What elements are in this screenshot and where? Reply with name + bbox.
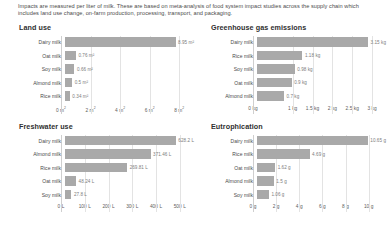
- axis-tick-label: 4 g: [296, 204, 303, 209]
- chart-title: Land use: [19, 23, 194, 32]
- bar-category-label: Oat milk: [210, 165, 257, 171]
- bar-category-label: Oat milk: [18, 53, 65, 59]
- bar-area: 4.69 g: [257, 148, 386, 160]
- chart-panel-freshwater-use: Freshwater use Dairy milk628.2 LAlmond m…: [18, 122, 194, 213]
- axis-tick-label: 4 m2: [115, 106, 125, 113]
- bar[interactable]: [65, 78, 72, 88]
- bar-area: 1.06 g: [257, 189, 386, 201]
- bar-area: 371.46 L: [65, 148, 194, 160]
- bar-value-label: 1.62 g: [278, 165, 291, 170]
- bar-area: 0.76 m²: [65, 50, 194, 62]
- bar-value-label: 3.15 kg: [371, 40, 386, 45]
- axis-tick-label: 1.5 kg: [306, 106, 319, 111]
- bar-value-label: 371.46 L: [153, 152, 171, 157]
- axis-tick-label: 200 L: [102, 204, 114, 209]
- bar[interactable]: [65, 136, 176, 146]
- axis-tick-label: 0 m2: [56, 106, 66, 113]
- bar[interactable]: [257, 163, 275, 173]
- axis-tick-label: 400 L: [150, 204, 162, 209]
- bar-value-label: 8.95 m²: [178, 40, 194, 45]
- bar-category-label: Oat milk: [210, 80, 257, 86]
- bar-area: 0.66 m²: [65, 63, 194, 75]
- bar-category-label: Dairy milk: [210, 138, 257, 144]
- bar-chart: Dairy milk10.65 gRice milk4.69 gOat milk…: [210, 135, 386, 213]
- bar-area: 1.18 kg: [257, 50, 386, 62]
- bar-area: 10.65 g: [257, 135, 386, 147]
- axis-tick-label: 0 g: [250, 204, 257, 209]
- bar[interactable]: [257, 37, 368, 47]
- bar-value-label: 0.76 m²: [78, 53, 94, 58]
- bar-value-label: 48.24 L: [79, 179, 95, 184]
- bar-row: Rice milk269.81 L: [18, 162, 194, 174]
- bar[interactable]: [257, 91, 284, 101]
- axis-tick-label: 100 L: [79, 204, 91, 209]
- bar-category-label: Almond milk: [210, 93, 257, 99]
- bar-area: 8.95 m²: [65, 36, 194, 48]
- bar-area: 27.8 L: [65, 189, 194, 201]
- bar-category-label: Soy milk: [18, 192, 65, 198]
- x-axis: 0 g2 g4 g6 g8 g10 g: [253, 202, 386, 212]
- bar-value-label: 0.5 m²: [75, 80, 88, 85]
- chart-panel-eutrophication: Eutrophication Dairy milk10.65 gRice mil…: [210, 122, 386, 213]
- bar-category-label: Almond milk: [18, 151, 65, 157]
- infographic-page: Impacts are measured per liter of milk. …: [0, 0, 387, 236]
- axis-tick-label: 8 g: [342, 204, 349, 209]
- bar-value-label: 0.9 kg: [294, 80, 307, 85]
- bar[interactable]: [65, 64, 74, 74]
- bar[interactable]: [257, 64, 295, 74]
- bar[interactable]: [257, 51, 302, 61]
- bar-value-label: 1.06 g: [271, 192, 284, 197]
- bar-value-label: 0.7 kg: [286, 94, 299, 99]
- bar[interactable]: [257, 176, 274, 186]
- bar-row: Dairy milk8.95 m²: [18, 36, 194, 48]
- axis-tick-label: 10 g: [364, 204, 374, 209]
- bar-row: Soy milk0.98 kg: [210, 63, 386, 75]
- bar[interactable]: [65, 91, 70, 101]
- bar-area: 3.15 kg: [257, 36, 386, 48]
- charts-grid: Land use Dairy milk8.95 m²Oat milk0.76 m…: [18, 23, 369, 212]
- bar-chart: Dairy milk8.95 m²Oat milk0.76 m²Soy milk…: [18, 36, 194, 114]
- bar-area: 1.62 g: [257, 162, 386, 174]
- bar-row: Oat milk48.24 L: [18, 175, 194, 187]
- bar-category-label: Dairy milk: [18, 138, 65, 144]
- bar-area: 1.5 g: [257, 175, 386, 187]
- chart-title: Greenhouse gas emissions: [211, 23, 386, 32]
- bar-row: Soy milk1.06 g: [210, 189, 386, 201]
- chart-panel-greenhouse-gas-emissions: Greenhouse gas emissions Dairy milk3.15 …: [210, 23, 386, 114]
- bar-category-label: Dairy milk: [18, 39, 65, 45]
- bar-area: 269.81 L: [65, 162, 194, 174]
- bar[interactable]: [65, 163, 127, 173]
- bar[interactable]: [257, 136, 368, 146]
- axis-tick-label: 6 g: [319, 204, 326, 209]
- bar-row: Oat milk0.9 kg: [210, 77, 386, 89]
- bar-row: Rice milk0.34 m²: [18, 90, 194, 102]
- bar-value-label: 4.69 g: [312, 152, 325, 157]
- bar-category-label: Rice milk: [18, 93, 65, 99]
- x-axis: 0 m22 m24 m26 m28 m2: [61, 104, 194, 114]
- bar-area: 628.2 L: [65, 135, 194, 147]
- bar[interactable]: [65, 176, 76, 186]
- bar-value-label: 0.98 kg: [297, 67, 312, 72]
- bar[interactable]: [65, 51, 76, 61]
- bar-category-label: Oat milk: [18, 178, 65, 184]
- bar-row: Oat milk1.62 g: [210, 162, 386, 174]
- bar[interactable]: [257, 149, 310, 159]
- bar-category-label: Soy milk: [210, 66, 257, 72]
- bar-row: Almond milk0.5 m²: [18, 77, 194, 89]
- axis-tick-label: 2 m2: [86, 106, 96, 113]
- bar-row: Rice milk4.69 g: [210, 148, 386, 160]
- bar-row: Almond milk1.5 g: [210, 175, 386, 187]
- bar[interactable]: [65, 149, 151, 159]
- bar-area: 0.98 kg: [257, 63, 386, 75]
- bar-category-label: Dairy milk: [210, 39, 257, 45]
- axis-tick-label: 2 g: [273, 204, 280, 209]
- axis-tick-label: 0 kg: [248, 106, 257, 111]
- bar-rows: Dairy milk628.2 LAlmond milk371.46 LRice…: [18, 135, 194, 201]
- bar[interactable]: [65, 190, 71, 200]
- intro-paragraph: Impacts are measured per liter of milk. …: [18, 3, 368, 17]
- bar[interactable]: [257, 78, 292, 88]
- bar[interactable]: [65, 37, 176, 47]
- axis-tick-label: 300 L: [126, 204, 138, 209]
- bar-category-label: Soy milk: [210, 192, 257, 198]
- bar[interactable]: [257, 190, 269, 200]
